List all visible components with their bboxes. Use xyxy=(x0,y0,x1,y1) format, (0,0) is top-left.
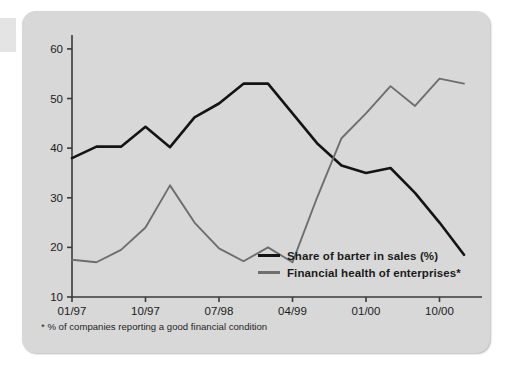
legend-line-swatch-icon xyxy=(258,254,280,257)
page-edge-artifact xyxy=(0,18,16,52)
line-chart-plot: 102030405060 01/9710/9707/9804/9901/0010… xyxy=(22,11,490,353)
chart-screenshot: 102030405060 01/9710/9707/9804/9901/0010… xyxy=(0,0,512,366)
svg-text:60: 60 xyxy=(50,43,63,55)
svg-text:50: 50 xyxy=(50,93,63,105)
legend-line-swatch-icon xyxy=(258,271,280,274)
legend-label: Financial health of enterprises* xyxy=(287,267,461,279)
x-axis-ticks: 01/9710/9707/9804/9901/0010/00 xyxy=(58,297,454,317)
svg-text:10/97: 10/97 xyxy=(131,305,160,317)
svg-text:04/99: 04/99 xyxy=(278,305,307,317)
svg-text:20: 20 xyxy=(50,241,63,253)
legend-label: Share of barter in sales (%) xyxy=(287,250,438,262)
svg-text:10/00: 10/00 xyxy=(425,305,454,317)
svg-text:07/98: 07/98 xyxy=(205,305,234,317)
svg-text:10: 10 xyxy=(50,291,63,303)
chart-footnote: * % of companies reporting a good financ… xyxy=(41,321,267,332)
chart-legend: Share of barter in sales (%) Financial h… xyxy=(258,247,461,281)
svg-text:40: 40 xyxy=(50,142,63,154)
legend-item-0: Share of barter in sales (%) xyxy=(258,247,461,264)
svg-text:01/00: 01/00 xyxy=(352,305,381,317)
svg-text:30: 30 xyxy=(50,192,63,204)
chart-series xyxy=(72,79,464,263)
y-axis-ticks: 102030405060 xyxy=(50,43,72,303)
svg-text:01/97: 01/97 xyxy=(58,305,87,317)
chart-panel: 102030405060 01/9710/9707/9804/9901/0010… xyxy=(22,11,490,353)
legend-item-1: Financial health of enterprises* xyxy=(258,264,461,281)
